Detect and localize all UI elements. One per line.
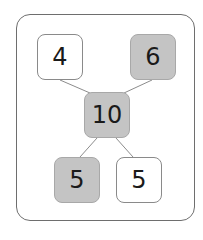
box-value: 5 bbox=[131, 166, 146, 194]
box-value: 4 bbox=[52, 43, 67, 71]
box-center: 10 bbox=[84, 92, 130, 138]
box-bottom-left: 5 bbox=[54, 157, 100, 203]
box-value: 10 bbox=[92, 101, 123, 129]
box-top-left: 4 bbox=[37, 34, 83, 80]
box-top-right: 6 bbox=[130, 34, 176, 80]
box-bottom-right: 5 bbox=[116, 157, 162, 203]
box-value: 6 bbox=[145, 43, 160, 71]
box-value: 5 bbox=[69, 166, 84, 194]
